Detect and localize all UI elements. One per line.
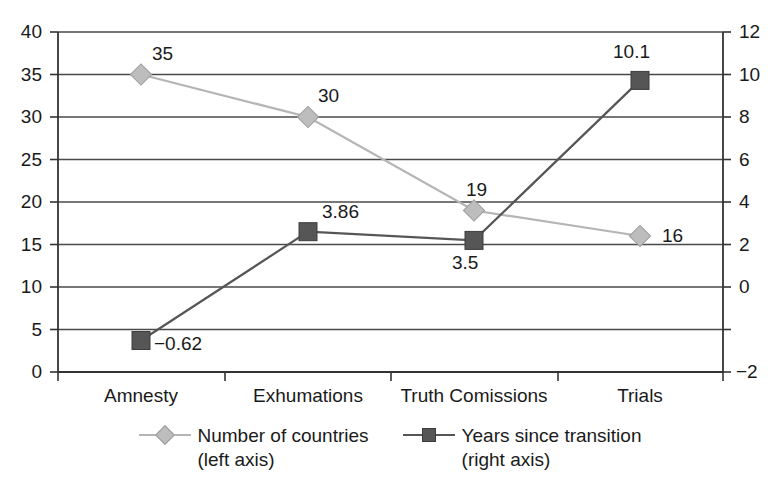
right-axis-tick-4: 4 — [739, 192, 750, 211]
series-years-since-transition — [132, 71, 649, 349]
left-axis-tick-25: 25 — [0, 150, 42, 169]
legend-entry-number-of-countries[interactable]: Number of countries (left axis) — [139, 424, 369, 472]
right-axis-tick-12: 12 — [739, 22, 760, 41]
legend-label-line1: Years since transition — [462, 425, 642, 446]
category-label-truth-comissions: Truth Comissions — [400, 386, 547, 406]
data-label-years-truth: 3.5 — [452, 253, 478, 272]
category-label-exhumations: Exhumations — [253, 386, 363, 406]
chart-container: 40 35 30 25 20 15 10 5 0 12 10 8 6 4 2 0… — [0, 0, 780, 496]
left-axis-tick-0: 0 — [0, 362, 42, 381]
left-axis-tick-15: 15 — [0, 235, 42, 254]
series-marker-square — [132, 71, 649, 349]
data-label-countries-trials: 16 — [662, 226, 683, 245]
category-axis-ticks — [58, 372, 723, 381]
right-axis-tick-minus2: −2 — [736, 362, 758, 381]
chart-legend: Number of countries (left axis) Years si… — [0, 424, 780, 472]
legend-swatch-square-icon — [403, 424, 455, 446]
category-label-trials: Trials — [617, 386, 663, 406]
left-axis-tick-10: 10 — [0, 277, 42, 296]
right-axis-tick-2: 2 — [739, 235, 750, 254]
legend-label-line2: (right axis) — [462, 448, 642, 472]
right-axis-tick-0: 0 — [739, 277, 750, 296]
chart-plot-area — [0, 0, 780, 496]
right-axis-tick-6: 6 — [739, 150, 750, 169]
left-axis-tick-40: 40 — [0, 22, 42, 41]
right-axis-ticks — [723, 32, 731, 372]
legend-label-years-since-transition: Years since transition (right axis) — [462, 424, 642, 472]
left-axis-tick-35: 35 — [0, 65, 42, 84]
gridlines — [58, 32, 723, 330]
data-label-countries-amnesty: 35 — [152, 44, 173, 63]
category-label-amnesty: Amnesty — [104, 386, 178, 406]
right-axis-tick-10: 10 — [739, 65, 760, 84]
left-axis-tick-30: 30 — [0, 107, 42, 126]
data-label-countries-exhumations: 30 — [318, 86, 339, 105]
legend-label-line1: Number of countries — [198, 425, 369, 446]
left-axis-ticks — [50, 32, 58, 372]
left-axis-tick-5: 5 — [0, 320, 42, 339]
legend-label-number-of-countries: Number of countries (left axis) — [198, 424, 369, 472]
series-number-of-countries — [130, 64, 650, 247]
data-label-years-trials: 10.1 — [613, 42, 650, 61]
legend-entry-years-since-transition[interactable]: Years since transition (right axis) — [403, 424, 642, 472]
data-label-countries-truth: 19 — [466, 180, 487, 199]
right-axis-tick-8: 8 — [739, 107, 750, 126]
legend-swatch-diamond-icon — [139, 424, 191, 446]
left-axis-tick-20: 20 — [0, 192, 42, 211]
legend-label-line2: (left axis) — [198, 448, 369, 472]
data-label-years-exhumations: 3.86 — [322, 202, 359, 221]
data-label-years-amnesty: −0.62 — [154, 334, 202, 353]
